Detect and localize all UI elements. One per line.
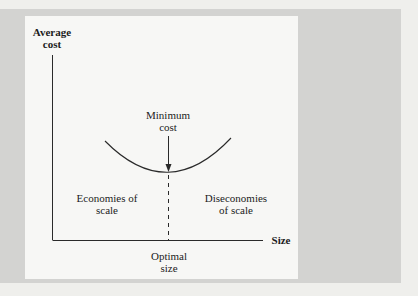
minimum-cost-line2: cost: [140, 121, 196, 133]
minimum-cost-label: Minimum cost: [140, 109, 196, 133]
optimal-size-label: Optimal size: [146, 250, 192, 274]
minimum-cost-line1: Minimum: [140, 109, 196, 121]
diseconomies-line1: Diseconomies: [200, 192, 272, 204]
economies-line2: scale: [70, 204, 144, 216]
y-axis-label-line1: Average: [28, 26, 76, 38]
diseconomies-line2: of scale: [200, 204, 272, 216]
economies-line1: Economies of: [70, 192, 144, 204]
diseconomies-of-scale-label: Diseconomies of scale: [200, 192, 272, 216]
optimal-size-line2: size: [146, 262, 192, 274]
economies-of-scale-label: Economies of scale: [70, 192, 144, 216]
y-axis-label: Average cost: [28, 26, 76, 50]
y-axis-label-line2: cost: [28, 38, 76, 50]
optimal-size-line1: Optimal: [146, 250, 192, 262]
arrow-head-icon: [166, 164, 172, 172]
x-axis-label: Size: [269, 234, 293, 246]
